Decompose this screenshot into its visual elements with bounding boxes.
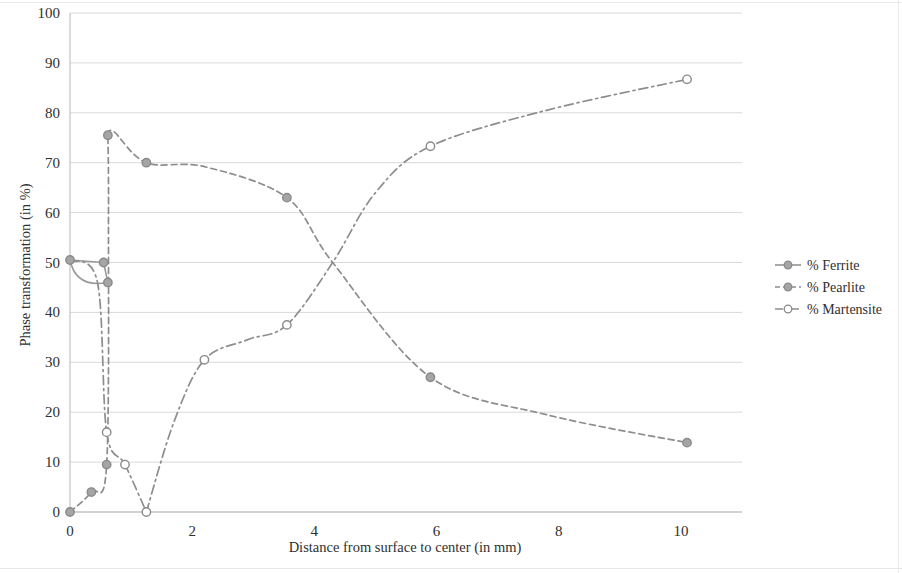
series-line-pearlite: [108, 130, 687, 442]
y-tick-label: 50: [45, 255, 60, 271]
x-tick-labels-group: 0246810: [66, 523, 688, 539]
data-point-ferrite: [99, 258, 107, 266]
data-point-pearlite: [104, 131, 112, 139]
data-point-pearlite: [283, 193, 291, 201]
data-point-martensite: [283, 321, 291, 329]
legend-marker: [784, 261, 792, 269]
y-tick-label: 60: [45, 205, 60, 221]
data-point-pearlite: [426, 373, 434, 381]
legend-item[interactable]: % Martensite: [775, 302, 882, 317]
chart-svg: 0102030405060708090100 0246810 Phase tra…: [0, 0, 902, 573]
data-point-pearlite: [102, 460, 110, 468]
data-point-martensite: [683, 75, 691, 83]
y-tick-label: 80: [45, 105, 60, 121]
data-point-ferrite: [66, 256, 74, 264]
data-point-martensite: [121, 460, 129, 468]
x-tick-label: 6: [433, 523, 441, 539]
data-point-pearlite: [66, 508, 74, 516]
legend-item[interactable]: % Pearlite: [775, 280, 865, 295]
x-tick-label: 8: [555, 523, 563, 539]
legend-marker: [784, 305, 792, 313]
chart-legend: % Ferrite% Pearlite% Martensite: [775, 258, 882, 317]
data-point-ferrite: [104, 278, 112, 286]
y-axis-title: Phase transformation (in %): [17, 183, 34, 346]
y-tick-label: 100: [38, 5, 61, 21]
y-tick-label: 40: [45, 304, 60, 320]
legend-item[interactable]: % Ferrite: [775, 258, 859, 273]
data-point-martensite: [200, 356, 208, 364]
series-line-martensite: [146, 79, 687, 512]
legend-label: % Martensite: [807, 302, 882, 317]
data-point-pearlite: [683, 438, 691, 446]
series-group: [66, 75, 691, 516]
data-point-martensite: [102, 428, 110, 436]
phase-transformation-chart: 0102030405060708090100 0246810 Phase tra…: [0, 0, 902, 573]
y-tick-label: 30: [45, 354, 60, 370]
legend-marker: [784, 283, 792, 291]
data-point-martensite: [142, 508, 150, 516]
y-tick-label: 10: [45, 454, 60, 470]
data-point-pearlite: [142, 159, 150, 167]
x-tick-label: 4: [311, 523, 319, 539]
x-axis-title: Distance from surface to center (in mm): [289, 539, 522, 556]
y-tick-labels-group: 0102030405060708090100: [38, 5, 61, 520]
x-tick-label: 2: [188, 523, 196, 539]
y-tick-label: 90: [45, 55, 60, 71]
x-tick-label: 0: [66, 523, 74, 539]
data-point-martensite: [426, 142, 434, 150]
x-tick-label: 10: [673, 523, 688, 539]
y-tick-label: 20: [45, 404, 60, 420]
gridlines-group: [70, 13, 742, 512]
data-point-pearlite: [87, 488, 95, 496]
legend-label: % Ferrite: [807, 258, 859, 273]
y-tick-label: 0: [53, 504, 61, 520]
y-tick-label: 70: [45, 155, 60, 171]
series-line-pearlite-rise: [70, 135, 109, 512]
legend-label: % Pearlite: [807, 280, 865, 295]
